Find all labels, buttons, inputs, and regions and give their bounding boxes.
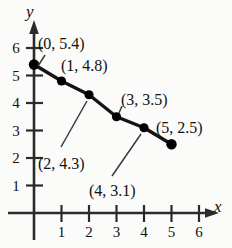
y-tick-label-6: 6 (8, 41, 24, 56)
data-point-marker (166, 139, 176, 149)
data-point-marker (29, 59, 39, 69)
y-tick-label-3: 3 (8, 124, 24, 139)
y-axis-label: y (26, 3, 34, 20)
leader-line-p4 (112, 134, 141, 176)
point-annotation-4: (4, 3.1) (89, 183, 136, 199)
x-axis-label: x (214, 198, 222, 215)
data-point-marker (57, 76, 66, 85)
leader-line-p0 (38, 55, 45, 66)
x-tick-label-5: 5 (164, 225, 180, 240)
point-annotation-1: (1, 4.8) (61, 58, 108, 74)
x-tick-label-4: 4 (136, 225, 152, 240)
y-tick-label-4: 4 (8, 96, 24, 111)
point-annotation-3: (3, 3.5) (121, 92, 168, 108)
x-tick-label-6: 6 (191, 225, 207, 240)
y-tick-label-2: 2 (8, 151, 24, 166)
y-tick-label-5: 5 (8, 69, 24, 84)
data-point-marker (112, 112, 121, 121)
y-axis-arrowhead (29, 20, 39, 34)
y-tick-label-1: 1 (8, 179, 24, 194)
data-point-marker (84, 90, 93, 99)
data-point-marker (139, 123, 148, 132)
point-annotation-2: (2, 4.3) (38, 156, 85, 172)
chart-figure: y x 1 2 3 4 5 6 1 2 3 4 5 6 (0, 5.4) (1,… (0, 0, 232, 248)
x-tick-label-3: 3 (109, 225, 125, 240)
point-annotation-5: (5, 2.5) (156, 120, 203, 136)
leader-line-p2 (61, 101, 87, 147)
x-tick-label-1: 1 (54, 225, 70, 240)
x-tick-label-2: 2 (81, 225, 97, 240)
point-annotation-0: (0, 5.4) (38, 36, 85, 52)
